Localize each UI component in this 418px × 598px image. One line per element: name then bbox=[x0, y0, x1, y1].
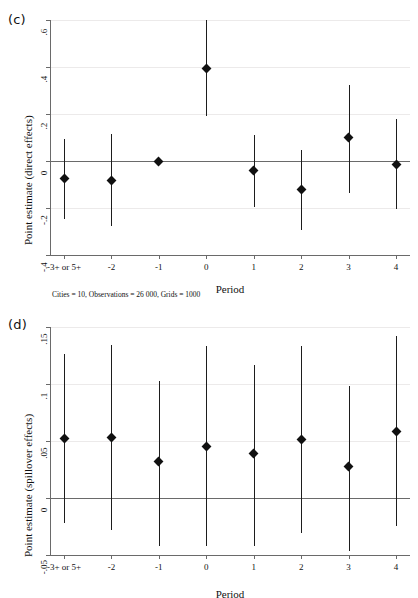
gridline bbox=[50, 20, 410, 21]
y-axis-tick-label: .6 bbox=[38, 20, 50, 44]
gridline bbox=[50, 114, 410, 115]
panel-c-direct-effects: (c) Point estimate (direct effects) .6.4… bbox=[0, 0, 418, 305]
y-axis-line bbox=[50, 20, 51, 255]
panel-d-spillover-effects: (d) Point estimate (spillover effects) .… bbox=[0, 305, 418, 598]
panel-label-c: (c) bbox=[8, 12, 26, 27]
x-axis-tick bbox=[301, 255, 302, 259]
gridline bbox=[50, 327, 410, 328]
y-axis-tick-label: .15 bbox=[38, 327, 50, 351]
x-axis-tick-label: 4 bbox=[356, 262, 418, 272]
x-axis-tick-label: 4 bbox=[356, 562, 418, 572]
point-estimate-marker bbox=[106, 176, 116, 186]
y-axis-tick-label: 0 bbox=[38, 498, 50, 522]
x-axis-tick bbox=[396, 255, 397, 259]
point-estimate-marker bbox=[249, 165, 259, 175]
zero-reference-line bbox=[50, 498, 410, 499]
x-axis-tick bbox=[159, 555, 160, 559]
gridline bbox=[50, 441, 410, 442]
x-axis-title-period-d: Period bbox=[50, 588, 410, 598]
plot-area-spillover-effects: .15.1.050-.05-3+ or 5+-2-101234 bbox=[50, 327, 410, 555]
y-axis-tick-label: -.2 bbox=[38, 208, 50, 232]
y-axis-tick-label: .4 bbox=[38, 67, 50, 91]
gridline bbox=[50, 208, 410, 209]
gridline bbox=[50, 384, 410, 385]
point-estimate-marker bbox=[201, 442, 211, 452]
point-estimate-marker bbox=[296, 435, 306, 445]
x-axis-tick bbox=[349, 555, 350, 559]
x-axis-tick bbox=[64, 255, 65, 259]
panel-c-note: Cities = 10, Observations = 26 000, Grid… bbox=[52, 290, 200, 299]
y-axis-title-direct-effects: Point estimate (direct effects) bbox=[22, 115, 34, 245]
y-axis-tick-label: 0 bbox=[38, 161, 50, 185]
y-axis-title-spillover-effects: Point estimate (spillover effects) bbox=[22, 414, 34, 557]
x-axis-tick bbox=[396, 555, 397, 559]
point-estimate-marker bbox=[59, 434, 69, 444]
point-estimate-marker bbox=[391, 427, 401, 437]
x-axis-tick bbox=[301, 555, 302, 559]
x-axis-tick bbox=[254, 555, 255, 559]
gridline bbox=[50, 67, 410, 68]
x-axis-tick bbox=[206, 255, 207, 259]
point-estimate-marker bbox=[154, 457, 164, 467]
y-axis-tick-label: .2 bbox=[38, 114, 50, 138]
point-estimate-marker bbox=[296, 184, 306, 194]
zero-reference-line bbox=[50, 161, 410, 162]
x-axis-tick bbox=[64, 555, 65, 559]
point-estimate-marker bbox=[201, 64, 211, 74]
y-axis-line bbox=[50, 327, 51, 555]
point-estimate-marker bbox=[59, 174, 69, 184]
x-axis-tick bbox=[111, 255, 112, 259]
x-axis-tick bbox=[206, 555, 207, 559]
figure-event-study-panels: (c) Point estimate (direct effects) .6.4… bbox=[0, 0, 418, 598]
x-axis-line bbox=[50, 555, 410, 556]
point-estimate-marker bbox=[249, 448, 259, 458]
plot-area-direct-effects: .6.4.20-.2-.4-3+ or 5+-2-101234 bbox=[50, 20, 410, 255]
y-axis-tick-label: .1 bbox=[38, 384, 50, 408]
x-axis-tick bbox=[254, 255, 255, 259]
point-estimate-marker bbox=[344, 462, 354, 472]
x-axis-tick bbox=[349, 255, 350, 259]
y-axis-tick-label: .05 bbox=[38, 441, 50, 465]
x-axis-tick bbox=[159, 255, 160, 259]
panel-label-d: (d) bbox=[8, 317, 27, 332]
x-axis-line bbox=[50, 255, 410, 256]
point-estimate-marker bbox=[344, 133, 354, 143]
x-axis-tick bbox=[111, 555, 112, 559]
point-estimate-marker bbox=[154, 156, 164, 166]
